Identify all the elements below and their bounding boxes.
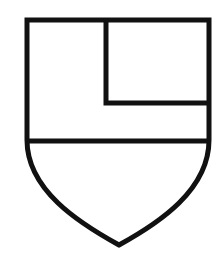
shield-outline xyxy=(27,20,209,245)
shield-diagram: heraldic-shield xyxy=(0,0,224,270)
shield-svg xyxy=(0,0,224,270)
